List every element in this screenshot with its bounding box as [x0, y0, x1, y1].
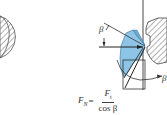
normal-force-formula: FN = Ft cos β — [78, 88, 119, 114]
right-beta-label: β — [162, 73, 166, 83]
formula-lhs: FN — [78, 95, 88, 107]
beta-arc — [106, 25, 109, 30]
blue-tool — [120, 30, 145, 77]
right-hatched-workpiece — [146, 18, 167, 64]
left-hatched-workpiece — [0, 16, 15, 58]
beta-label: β — [99, 24, 103, 34]
beta-arrow-icon — [103, 42, 106, 46]
formula-denominator: cos β — [97, 103, 120, 114]
formula-equals: = — [89, 96, 94, 106]
formula-fraction: Ft cos β — [97, 88, 120, 114]
formula-numerator: Ft — [102, 88, 113, 103]
